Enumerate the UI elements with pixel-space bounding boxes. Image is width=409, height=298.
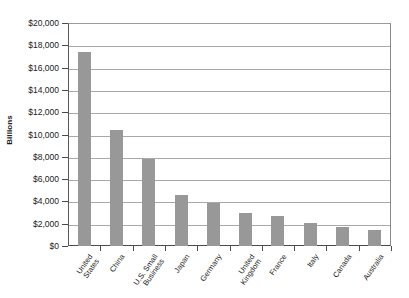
x-axis-tick	[326, 246, 327, 251]
bar	[271, 216, 284, 246]
bar	[304, 223, 317, 246]
x-axis-tick	[165, 246, 166, 251]
x-axis-label: Australia	[362, 253, 386, 282]
y-axis-label: $2,000	[5, 219, 59, 229]
x-axis-tick	[262, 246, 263, 251]
y-axis-label: $12,000	[5, 107, 59, 117]
y-axis-label: $10,000	[5, 130, 59, 140]
bar-chart: Billions $0$2,000$4,000$6,000$8,000$10,0…	[0, 0, 409, 298]
y-axis-label: $14,000	[5, 85, 59, 95]
x-axis-label: Canada	[331, 253, 353, 280]
y-axis-tick	[62, 246, 68, 247]
x-axis-label: France	[268, 253, 288, 277]
x-axis-tick	[100, 246, 101, 251]
y-axis-label: $20,000	[5, 18, 59, 28]
x-axis-tick	[197, 246, 198, 251]
x-axis-tick	[230, 246, 231, 251]
bar	[368, 230, 381, 246]
x-axis-label: UnitedStates	[76, 253, 102, 281]
y-axis-label: $16,000	[5, 63, 59, 73]
bar	[207, 203, 220, 246]
bar	[110, 130, 123, 246]
bar-series	[68, 23, 391, 246]
x-axis-tick	[359, 246, 360, 251]
bar	[175, 195, 188, 246]
x-axis-label: Germany	[199, 253, 224, 283]
x-axis-tick	[294, 246, 295, 251]
x-axis-label: UnitedKingdom	[232, 253, 263, 287]
x-axis-label: U.S. SmallBusiness	[132, 253, 166, 292]
bar	[336, 227, 349, 246]
x-axis-label: Japan	[173, 253, 192, 275]
y-axis-label: $8,000	[5, 152, 59, 162]
bar	[78, 52, 91, 246]
y-axis-label: $18,000	[5, 40, 59, 50]
x-axis-label: Italy	[306, 253, 321, 269]
bar	[239, 213, 252, 246]
bar	[142, 159, 155, 246]
y-axis-label: $6,000	[5, 174, 59, 184]
y-axis-label: $0	[5, 241, 59, 251]
y-axis-label: $4,000	[5, 196, 59, 206]
x-axis-tick	[391, 246, 392, 251]
x-axis-tick	[133, 246, 134, 251]
x-axis-label: China	[109, 253, 127, 274]
